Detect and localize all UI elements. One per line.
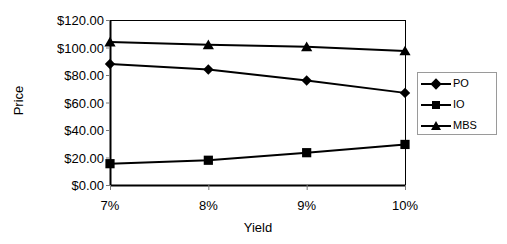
legend-marker-diamond-icon — [421, 76, 451, 92]
line-chart: Price $0.00$20.00$40.00$60.00$80.00$100.… — [0, 0, 507, 244]
x-tick-label: 7% — [80, 199, 140, 212]
legend-label: MBS — [451, 120, 477, 131]
x-tick-label: 9% — [277, 199, 337, 212]
legend-marker-triangle-icon — [421, 118, 451, 134]
x-axis-title: Yield — [110, 220, 406, 235]
chart-legend: POIOMBS — [417, 72, 497, 135]
legend-label: PO — [451, 78, 469, 89]
legend-item-po[interactable]: PO — [418, 73, 496, 94]
x-tick-label: 8% — [178, 199, 238, 212]
x-tick-label: 10% — [375, 199, 435, 212]
legend-item-mbs[interactable]: MBS — [418, 115, 496, 136]
legend-item-io[interactable]: IO — [418, 94, 496, 115]
legend-marker-square-icon — [421, 97, 451, 113]
legend-label: IO — [451, 99, 465, 110]
